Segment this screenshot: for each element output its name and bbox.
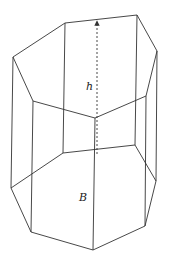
lateral-edge-7 (31, 101, 33, 232)
lateral-edge-3 (135, 15, 137, 145)
lateral-edges (11, 15, 157, 250)
base-label: B (78, 191, 87, 204)
lateral-edge-1 (11, 57, 13, 188)
height-label: h (86, 80, 93, 93)
lateral-edge-2 (63, 23, 65, 153)
prism-diagram: h B (0, 0, 170, 267)
lateral-edge-6 (93, 118, 95, 250)
lateral-edge-5 (145, 96, 146, 226)
lateral-edge-4 (156, 51, 157, 181)
